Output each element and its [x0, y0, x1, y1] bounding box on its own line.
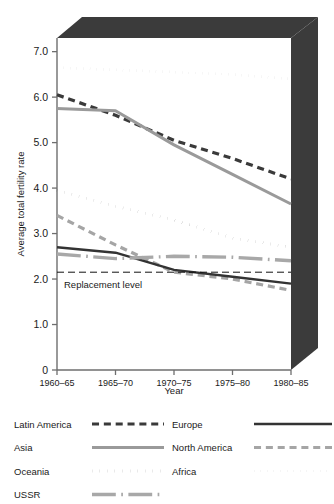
- y-axis-ticks: 01.02.03.04.05.06.07.0: [33, 45, 57, 375]
- x-axis-tick-label: 1965–70: [98, 378, 133, 388]
- x-axis-title: Year: [164, 385, 183, 396]
- legend-label-ussr: USSR: [14, 489, 41, 500]
- y-axis-tick-label: 3.0: [33, 227, 48, 239]
- y-axis-tick-label: 7.0: [33, 45, 48, 57]
- chart-box-top-slab: [57, 17, 318, 38]
- x-axis-tick-label: 1960–65: [39, 378, 74, 388]
- y-axis-tick-label: 4.0: [33, 182, 48, 194]
- legend-label-latin-america: Latin America: [14, 419, 72, 430]
- replacement-level-label: Replacement level: [64, 279, 142, 290]
- y-axis-tick-label: 1.0: [33, 318, 48, 330]
- chart-legend: Latin AmericaAsiaOceaniaUSSREuropeNorth …: [14, 419, 332, 501]
- y-axis-tick-label: 6.0: [33, 91, 48, 103]
- chart-box-right-slab: [291, 17, 318, 370]
- y-axis-tick-label: 2.0: [33, 273, 48, 285]
- y-axis-tick-label: 0: [42, 364, 48, 376]
- legend-label-europe: Europe: [172, 419, 203, 430]
- legend-label-asia: Asia: [14, 442, 33, 453]
- y-axis-tick-label: 5.0: [33, 136, 48, 148]
- legend-label-africa: Africa: [172, 466, 197, 477]
- plot-area-background: [57, 38, 291, 370]
- y-axis-title: Average total fertility rate: [15, 152, 26, 257]
- chart-svg: 01.02.03.04.05.06.07.0 1960–651965–70197…: [0, 0, 334, 504]
- fertility-rate-chart: 01.02.03.04.05.06.07.0 1960–651965–70197…: [0, 0, 334, 504]
- x-axis-tick-label: 1980–85: [273, 378, 308, 388]
- legend-label-north-america: North America: [172, 442, 233, 453]
- x-axis-tick-label: 1975–80: [215, 378, 250, 388]
- legend-label-oceania: Oceania: [14, 466, 50, 477]
